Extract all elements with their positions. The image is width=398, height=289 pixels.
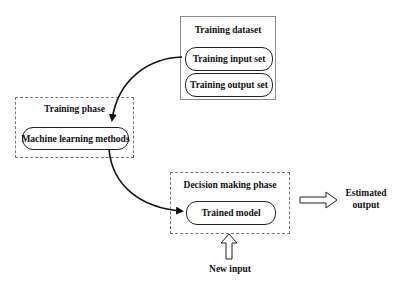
new-input-label: New input xyxy=(200,263,260,275)
estimated-output-line2: output xyxy=(340,199,392,211)
decision-making-phase-box: Decision making phase Trained model xyxy=(170,172,290,234)
training-phase-box: Training phase Machine learning methods xyxy=(15,97,134,158)
hollow-arrow-right-icon xyxy=(300,192,337,208)
trained-model-node: Trained model xyxy=(186,201,276,225)
decision-making-phase-title: Decision making phase xyxy=(171,180,289,190)
estimated-output-label: Estimated output xyxy=(340,187,392,211)
training-input-set-node: Training input set xyxy=(185,47,273,71)
training-output-set-node: Training output set xyxy=(185,73,273,97)
estimated-output-line1: Estimated xyxy=(340,187,392,199)
hollow-arrow-up-icon xyxy=(221,234,237,259)
machine-learning-methods-node: Machine learning methods xyxy=(22,127,129,150)
training-dataset-title: Training dataset xyxy=(181,25,275,35)
training-dataset-box: Training dataset Training input set Trai… xyxy=(180,16,276,100)
training-phase-title: Training phase xyxy=(16,104,133,114)
